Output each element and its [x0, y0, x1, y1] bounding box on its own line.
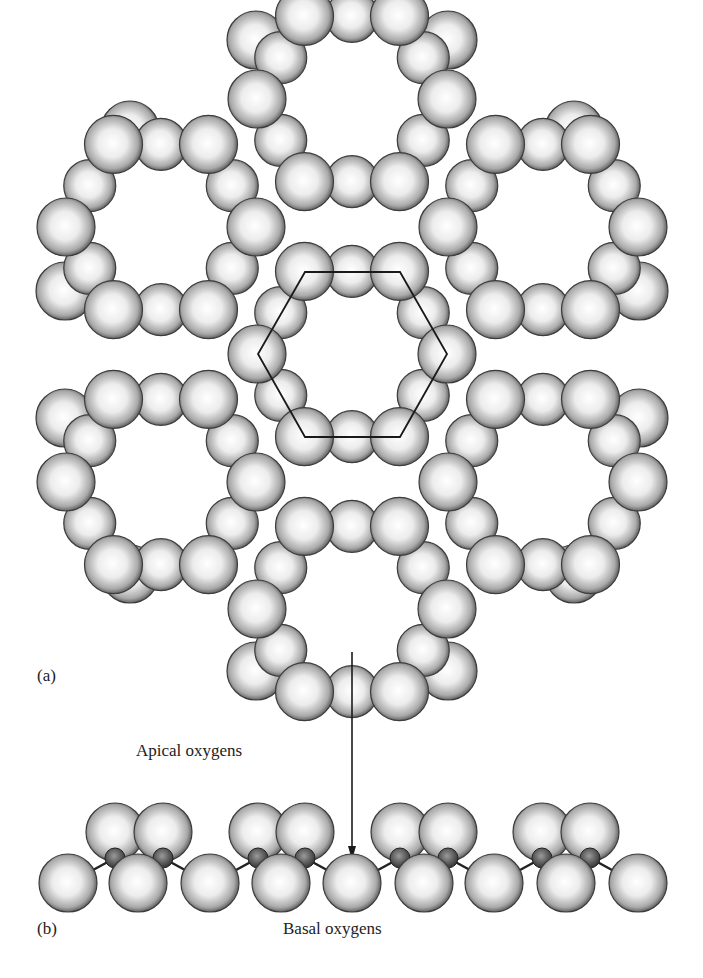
basal-oxygen	[180, 115, 238, 173]
panel-b-label: (b)	[37, 919, 57, 939]
basal-oxygen	[467, 115, 525, 173]
apical-oxygens-label: Apical oxygens	[136, 741, 242, 761]
basal-oxygen-side	[109, 854, 167, 912]
basal-oxygen	[562, 115, 620, 173]
basal-oxygen	[371, 497, 429, 555]
basal-oxygen	[37, 198, 95, 256]
basal-oxygen	[418, 70, 476, 128]
top-view-sheet	[36, 0, 668, 721]
basal-oxygen	[85, 536, 143, 594]
basal-oxygen	[85, 281, 143, 339]
basal-oxygen	[276, 153, 334, 211]
basal-oxygen	[371, 153, 429, 211]
basal-oxygen-side	[39, 854, 97, 912]
basal-oxygen	[562, 536, 620, 594]
basal-oxygen	[85, 115, 143, 173]
basal-oxygen	[276, 497, 334, 555]
basal-oxygen-side	[609, 854, 667, 912]
panel-a-label: (a)	[37, 666, 56, 686]
basal-oxygen	[228, 70, 286, 128]
basal-oxygen	[227, 453, 285, 511]
basal-oxygen-side	[181, 854, 239, 912]
basal-oxygen	[419, 198, 477, 256]
basal-oxygen	[467, 536, 525, 594]
basal-oxygen	[37, 453, 95, 511]
basal-oxygen	[276, 663, 334, 721]
basal-oxygen	[467, 281, 525, 339]
basal-oxygen	[371, 663, 429, 721]
silicate-sheet-figure	[0, 0, 703, 978]
basal-oxygen	[419, 453, 477, 511]
basal-oxygen	[180, 370, 238, 428]
basal-oxygen-side	[395, 854, 453, 912]
side-view-sheet	[39, 803, 667, 912]
basal-oxygen-side	[323, 854, 381, 912]
basal-oxygen	[228, 580, 286, 638]
basal-oxygen	[467, 370, 525, 428]
basal-oxygens-label: Basal oxygens	[283, 919, 382, 939]
bridging-oxygen	[326, 0, 378, 42]
basal-oxygen-side	[537, 854, 595, 912]
basal-oxygen	[180, 536, 238, 594]
basal-oxygen	[562, 370, 620, 428]
basal-oxygen	[227, 198, 285, 256]
basal-oxygen-side	[252, 854, 310, 912]
basal-oxygen-side	[465, 854, 523, 912]
basal-oxygen	[180, 281, 238, 339]
basal-oxygen	[609, 453, 667, 511]
basal-oxygen	[562, 281, 620, 339]
basal-oxygen	[418, 580, 476, 638]
basal-oxygen	[85, 370, 143, 428]
basal-oxygen	[609, 198, 667, 256]
